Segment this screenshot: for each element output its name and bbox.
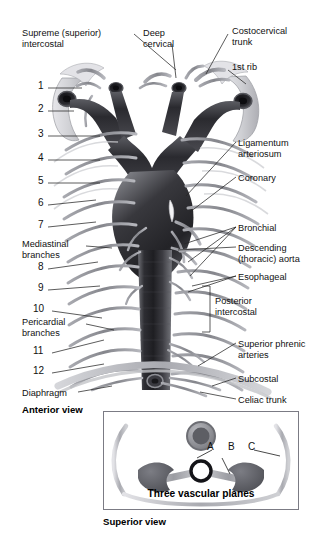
superior-view-inset: A B C Three vascular planes xyxy=(103,411,299,510)
label-descending-thoracic-aorta: Descending (thoracic) aorta xyxy=(238,243,300,264)
thoracic-wall-right xyxy=(276,426,288,494)
plane-label-b: B xyxy=(228,441,235,452)
label-posterior-intercostal: Posterior intercostal xyxy=(215,296,257,317)
label-deep-cervical: Deep cervical xyxy=(143,28,174,49)
label-supreme-intercostal: Supreme (superior) intercostal xyxy=(22,28,101,49)
label-coronary: Coronary xyxy=(238,173,276,184)
label-subcostal: Subcostal xyxy=(238,374,278,385)
label-diaphragm: Diaphragm xyxy=(22,388,67,399)
plane-label-c: C xyxy=(248,441,255,452)
label-ligamentum-arteriosum: Ligamentum arteriosum xyxy=(238,138,289,159)
label-superior-phrenic-arteries: Superior phrenic arteries xyxy=(238,339,305,360)
rib-number-3: 3 xyxy=(38,129,44,140)
rib-number-6: 6 xyxy=(38,198,44,209)
label-first-rib: 1st rib xyxy=(232,62,257,73)
label-celiac-trunk: Celiac trunk xyxy=(238,395,287,406)
rib-number-11: 11 xyxy=(33,346,43,357)
rib-number-2: 2 xyxy=(38,104,44,115)
rib-number-7: 7 xyxy=(38,220,44,231)
common-carotid-right-stump xyxy=(172,83,186,94)
rib-number-12: 12 xyxy=(33,366,44,377)
aorta-ring xyxy=(191,461,211,481)
descending-thoracic-aorta-vessel xyxy=(138,250,172,390)
thoracic-wall-left xyxy=(114,426,126,494)
rib-number-1: 1 xyxy=(38,81,44,92)
label-mediastinal-branches: Mediastinal branches xyxy=(22,239,68,260)
thoracic-aorta-figure: Supreme (superior) intercostal Deep cerv… xyxy=(0,0,328,540)
rib-number-10: 10 xyxy=(33,304,44,315)
deep-cervical-vessels xyxy=(140,74,170,88)
rib-number-4: 4 xyxy=(38,153,44,164)
rib-number-5: 5 xyxy=(38,176,44,187)
superior-view-label: Superior view xyxy=(103,516,166,527)
label-pericardial-branches: Pericardial branches xyxy=(22,317,65,338)
inset-caption: Three vascular planes xyxy=(104,488,298,499)
plane-label-a: A xyxy=(207,441,214,452)
label-bronchial: Bronchial xyxy=(238,223,276,234)
anterior-view-label: Anterior view xyxy=(22,404,83,415)
rib-number-9: 9 xyxy=(38,283,44,294)
label-costocervical-trunk: Costocervical trunk xyxy=(232,26,287,47)
label-esophageal: Esophageal xyxy=(238,272,287,283)
common-carotid-left-stump xyxy=(109,83,123,94)
rib-number-8: 8 xyxy=(38,262,44,273)
